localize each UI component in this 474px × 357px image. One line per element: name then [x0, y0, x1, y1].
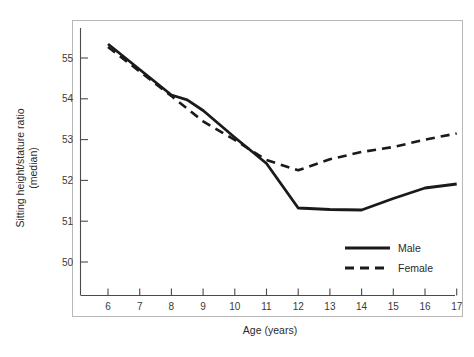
legend-label-male: Male — [398, 242, 421, 254]
y-tick-label-50: 50 — [62, 257, 74, 268]
x-tick-label-15: 15 — [388, 301, 400, 312]
x-tick-label-12: 12 — [293, 301, 305, 312]
x-tick-label-7: 7 — [137, 301, 143, 312]
chart-legend: Male Female — [345, 242, 433, 274]
x-tick-label-16: 16 — [419, 301, 431, 312]
x-axis-title: Age (years) — [243, 324, 297, 336]
series-line-female — [108, 47, 457, 170]
y-axis-title-line2: (median) — [27, 147, 39, 188]
x-tick-label-10: 10 — [229, 301, 241, 312]
y-tick-label-51: 51 — [62, 216, 74, 227]
series-line-male — [108, 44, 457, 210]
chart-figure: 55 54 53 52 51 50 6 7 8 9 10 11 12 13 — [0, 0, 474, 357]
y-tick-label-52: 52 — [62, 175, 74, 186]
y-axis-ticks — [81, 58, 89, 262]
x-tick-label-14: 14 — [356, 301, 368, 312]
line-chart: 55 54 53 52 51 50 6 7 8 9 10 11 12 13 — [0, 0, 474, 357]
y-tick-label-53: 53 — [62, 134, 74, 145]
x-axis-ticks — [108, 289, 457, 296]
legend-label-female: Female — [398, 262, 433, 274]
x-tick-label-9: 9 — [200, 301, 206, 312]
y-tick-label-54: 54 — [62, 93, 74, 104]
x-tick-label-6: 6 — [105, 301, 111, 312]
x-tick-label-13: 13 — [324, 301, 336, 312]
x-tick-label-8: 8 — [169, 301, 175, 312]
y-tick-label-55: 55 — [62, 53, 74, 64]
x-tick-label-11: 11 — [261, 301, 272, 312]
y-axis-title-line1: Sitting height/stature ratio — [14, 108, 26, 227]
x-tick-label-17: 17 — [451, 301, 463, 312]
